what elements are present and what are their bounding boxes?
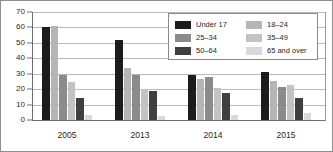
legend-grid: Under 1718–2425–3435–4950–6465 and over [175, 18, 312, 57]
y-tick-label: 60 [16, 23, 25, 31]
x-tick-label: 2013 [131, 130, 150, 140]
bar [231, 115, 239, 120]
bar [295, 98, 303, 120]
y-tick-label: 30 [16, 70, 25, 78]
bar [68, 82, 76, 120]
legend-entry: 25–34 [175, 31, 241, 44]
bar [270, 81, 278, 120]
bar [205, 77, 213, 120]
bar [261, 72, 269, 120]
legend-swatch [246, 34, 262, 42]
bar [59, 75, 67, 121]
legend-swatch [175, 21, 191, 29]
bar [149, 91, 157, 120]
bar [85, 115, 93, 120]
legend-label: 65 and over [267, 47, 307, 55]
y-tick-label: 70 [16, 8, 25, 16]
legend-label: 18–24 [267, 21, 288, 29]
bar-chart-figure: 010203040506070 2005201320142015 Under 1… [0, 0, 333, 152]
y-axis: 010203040506070 [1, 12, 32, 121]
legend-entry: 18–24 [246, 18, 312, 31]
legend-swatch [175, 34, 191, 42]
x-tick-label: 2014 [204, 130, 223, 140]
bar-group [33, 12, 106, 120]
bar [304, 113, 312, 120]
bar [214, 88, 222, 120]
legend-entry: Under 17 [175, 18, 241, 31]
bar [222, 93, 230, 120]
legend-swatch [175, 47, 191, 55]
x-tick-label: 2015 [277, 130, 296, 140]
bar [51, 26, 59, 120]
legend-label: 50–64 [196, 47, 217, 55]
bar [287, 85, 295, 120]
x-tick-label: 2005 [58, 130, 77, 140]
bar [42, 27, 50, 120]
legend-swatch [246, 47, 262, 55]
bar [124, 68, 132, 120]
y-tick-label: 40 [16, 54, 25, 62]
bar [141, 89, 149, 120]
bar [132, 75, 140, 121]
legend-entry: 35–49 [246, 31, 312, 44]
y-tick-label: 0 [21, 116, 25, 124]
legend-entry: 65 and over [246, 44, 312, 57]
y-tick-label: 50 [16, 39, 25, 47]
bar [76, 98, 84, 120]
bar [188, 75, 196, 121]
legend-swatch [246, 21, 262, 29]
bar [115, 40, 123, 120]
legend-label: 35–49 [267, 34, 288, 42]
x-axis: 2005201320142015 [33, 121, 325, 147]
bar [197, 79, 205, 120]
y-tick-label: 10 [16, 101, 25, 109]
bar [278, 87, 286, 120]
y-tick-label: 20 [16, 85, 25, 93]
chart-legend: Under 1718–2425–3435–4950–6465 and over [168, 13, 318, 60]
bar [158, 116, 166, 120]
legend-label: 25–34 [196, 34, 217, 42]
legend-label: Under 17 [196, 21, 227, 29]
legend-entry: 50–64 [175, 44, 241, 57]
